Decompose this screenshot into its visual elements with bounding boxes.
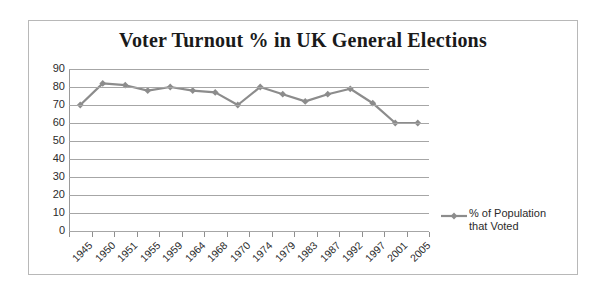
y-tick-label: 40	[39, 153, 65, 164]
x-tick	[339, 232, 340, 237]
x-tick	[384, 232, 385, 237]
x-tick	[92, 232, 93, 237]
data-point-marker	[279, 91, 286, 98]
x-tick	[317, 232, 318, 237]
data-point-marker	[189, 87, 196, 94]
y-axis-labels: 9080706050403020100	[35, 69, 65, 231]
gridline	[69, 177, 429, 178]
gridline	[69, 69, 429, 70]
data-point-marker	[302, 98, 309, 105]
y-tick-label: 70	[39, 99, 65, 110]
x-tick	[159, 232, 160, 237]
x-tick	[429, 232, 430, 237]
x-tick	[249, 232, 250, 237]
gridline	[69, 141, 429, 142]
gridline	[69, 195, 429, 196]
x-axis-labels: 1945195019511955195919641968197019741979…	[69, 239, 434, 279]
x-tick	[362, 232, 363, 237]
gridline	[69, 213, 429, 214]
data-point-marker	[324, 91, 331, 98]
x-tick	[204, 232, 205, 237]
series-line-chart	[69, 69, 429, 231]
chart-container: Voter Turnout % in UK General Elections …	[28, 20, 578, 275]
x-tick	[294, 232, 295, 237]
data-point-marker	[144, 87, 151, 94]
x-tick	[114, 232, 115, 237]
x-tick	[407, 232, 408, 237]
legend-label-line2: that Voted	[469, 220, 569, 233]
x-tick	[272, 232, 273, 237]
gridline	[69, 159, 429, 160]
y-tick-label: 30	[39, 171, 65, 182]
x-axis-ticks	[69, 232, 430, 238]
y-tick-label: 80	[39, 81, 65, 92]
y-tick-label: 90	[39, 63, 65, 74]
gridline	[69, 105, 429, 106]
gridline	[69, 123, 429, 124]
legend-marker-icon	[441, 211, 467, 221]
legend-label-line1: % of Population	[469, 207, 569, 220]
x-tick	[137, 232, 138, 237]
series-line	[80, 83, 418, 123]
y-tick-label: 10	[39, 207, 65, 218]
plot-area	[69, 69, 429, 231]
x-tick	[182, 232, 183, 237]
x-tick	[227, 232, 228, 237]
y-tick-label: 20	[39, 189, 65, 200]
x-tick	[69, 232, 70, 237]
chart-title: Voter Turnout % in UK General Elections	[29, 29, 577, 52]
y-tick-label: 50	[39, 135, 65, 146]
legend-label: % of Population that Voted	[469, 207, 569, 233]
y-tick-label: 60	[39, 117, 65, 128]
gridline	[69, 87, 429, 88]
y-tick-label: 0	[39, 225, 65, 236]
